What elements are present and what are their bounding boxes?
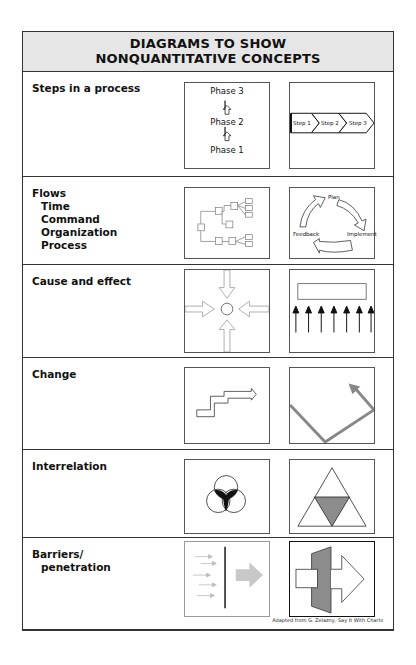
- stepped-arrow-icon: [185, 368, 269, 443]
- step-1-label: Step 1: [293, 120, 311, 126]
- arrows-to-bar-diagram: [289, 269, 375, 353]
- tree-icon: [185, 188, 269, 258]
- row-cause-and-effect: Cause and effect: [23, 265, 393, 358]
- row-barriers-penetration: Barriers/ penetration: [23, 538, 393, 630]
- converging-arrows-diagram: [184, 269, 270, 353]
- phase-1-label: Phase 1: [185, 145, 269, 155]
- diagram-table: DIAGRAMS TO SHOW NONQUANTITATIVE CONCEPT…: [22, 31, 394, 631]
- row-steps-in-process: Steps in a process Phase 3 Phase 2 Phase…: [23, 72, 393, 177]
- row-label: Flows Time Command Organization Process: [32, 187, 117, 252]
- row-label: Barriers/ penetration: [32, 548, 111, 574]
- row-change: Change: [23, 358, 393, 450]
- row-interrelation: Interrelation: [23, 450, 393, 538]
- cycle-diagram: Plan Implement Feedback: [289, 187, 375, 259]
- phase-2-label: Phase 2: [185, 117, 269, 127]
- feedback-label: Feedback: [293, 231, 319, 237]
- chevron-steps-diagram: Step 1 Step 2 Step 3: [289, 82, 375, 169]
- three-circles-diagram: [184, 459, 270, 534]
- implement-label: Implement: [347, 231, 377, 237]
- plan-label: Plan: [328, 194, 340, 200]
- row-flows: Flows Time Command Organization Process: [23, 177, 393, 265]
- v-line-arrow-diagram: [289, 367, 375, 444]
- row-label: Cause and effect: [32, 275, 131, 288]
- upward-arrows-icon: [290, 270, 374, 352]
- title-line-1: DIAGRAMS TO SHOW: [23, 36, 393, 51]
- wall-penetration-diagram: [289, 541, 375, 617]
- blocked-arrows-icon: [185, 542, 269, 616]
- row-label: Change: [32, 368, 76, 381]
- barrier-diagram: [184, 541, 270, 617]
- source-credit: Adapted from G. Zelazny, Say It With Cha…: [272, 617, 383, 623]
- step-3-label: Step 3: [349, 120, 367, 126]
- venn-icon: [185, 460, 269, 533]
- converging-arrows-icon: [185, 270, 269, 352]
- row-label: Steps in a process: [32, 82, 140, 95]
- nested-triangle-diagram: [289, 459, 375, 534]
- arrow-through-wall-icon: [290, 542, 374, 616]
- tree-flow-diagram: [184, 187, 270, 259]
- page-title: DIAGRAMS TO SHOW NONQUANTITATIVE CONCEPT…: [23, 32, 393, 72]
- vertical-phases-diagram: Phase 3 Phase 2 Phase 1: [184, 82, 270, 169]
- change-direction-icon: [290, 368, 374, 443]
- title-line-2: NONQUANTITATIVE CONCEPTS: [23, 51, 393, 66]
- row-label: Interrelation: [32, 460, 107, 473]
- phase-3-label: Phase 3: [185, 86, 269, 96]
- triangle-icon: [290, 460, 374, 533]
- step-2-label: Step 2: [321, 120, 339, 126]
- stepped-arrow-diagram: [184, 367, 270, 444]
